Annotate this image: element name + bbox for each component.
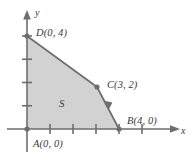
vertex-dot-b [116, 126, 121, 131]
y-axis-label: y [35, 8, 40, 18]
vertex-dot-c [94, 84, 99, 89]
vertex-label-c: C(3, 2) [107, 80, 137, 91]
region-label-s: S [59, 98, 65, 109]
shaded-region-s [27, 36, 119, 129]
figure-canvas [0, 0, 195, 163]
x-axis-label: x [181, 126, 186, 136]
vertex-label-b: B(4, 0) [127, 116, 157, 127]
vertex-dot-d [24, 33, 29, 38]
y-axis-arrowhead [23, 10, 31, 20]
vertex-label-a: A(0, 0) [33, 139, 63, 150]
x-axis-arrowhead [170, 125, 180, 133]
vertex-dot-a [24, 126, 29, 131]
vertex-label-d: D(0, 4) [36, 28, 67, 39]
math-figure: D(0, 4) C(3, 2) B(4, 0) A(0, 0) S x y [0, 0, 195, 163]
